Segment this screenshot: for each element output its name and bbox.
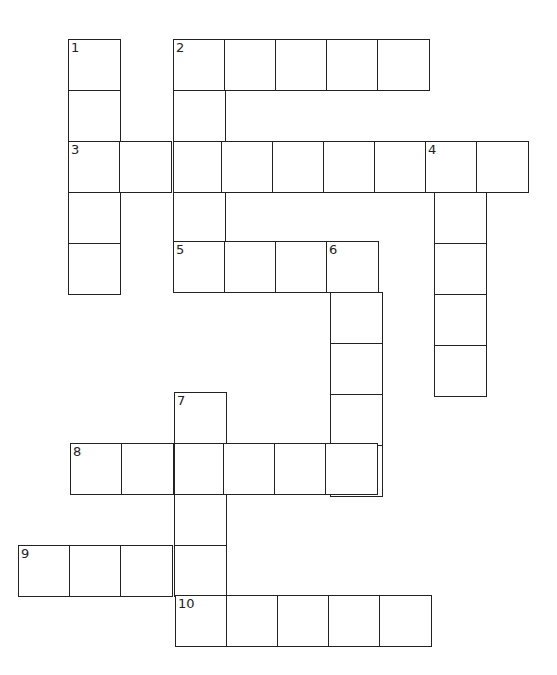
crossword-cell[interactable]	[476, 141, 529, 193]
crossword-cell[interactable]	[434, 192, 487, 244]
clue-number: 8	[73, 444, 81, 459]
crossword-cell[interactable]: 3	[68, 141, 121, 193]
clue-number: 2	[176, 40, 184, 55]
crossword-cell[interactable]	[173, 141, 226, 193]
crossword-cell[interactable]	[174, 443, 227, 495]
crossword-cell[interactable]	[224, 39, 277, 91]
crossword-cell[interactable]	[173, 90, 226, 142]
crossword-cell[interactable]	[374, 141, 427, 193]
crossword-cell[interactable]	[325, 443, 378, 495]
crossword-cell[interactable]: 1	[68, 39, 121, 91]
crossword-cell[interactable]	[328, 595, 381, 647]
crossword-cell[interactable]	[434, 243, 487, 295]
crossword-cell[interactable]	[330, 292, 383, 344]
crossword-cell[interactable]	[121, 443, 174, 495]
crossword-grid: 13245678910	[0, 0, 557, 675]
clue-number: 5	[176, 242, 184, 257]
crossword-cell[interactable]	[221, 141, 274, 193]
clue-number: 3	[71, 142, 79, 157]
clue-number: 1	[71, 40, 79, 55]
crossword-cell[interactable]: 8	[70, 443, 123, 495]
crossword-cell[interactable]	[68, 90, 121, 142]
crossword-cell[interactable]: 7	[174, 392, 227, 444]
clue-number: 6	[329, 242, 337, 257]
crossword-cell[interactable]	[275, 39, 328, 91]
crossword-cell[interactable]	[69, 545, 122, 597]
crossword-cell[interactable]: 5	[173, 241, 226, 293]
clue-number: 10	[178, 596, 195, 611]
crossword-cell[interactable]	[119, 141, 172, 193]
crossword-cell[interactable]	[224, 241, 277, 293]
crossword-cell[interactable]	[68, 243, 121, 295]
crossword-cell[interactable]	[434, 345, 487, 397]
crossword-cell[interactable]: 6	[326, 241, 379, 293]
crossword-cell[interactable]	[174, 494, 227, 546]
crossword-cell[interactable]: 4	[425, 141, 478, 193]
crossword-cell[interactable]	[68, 192, 121, 244]
crossword-cell[interactable]	[379, 595, 432, 647]
crossword-cell[interactable]	[272, 141, 325, 193]
clue-number: 4	[428, 142, 436, 157]
crossword-cell[interactable]	[174, 545, 227, 597]
crossword-cell[interactable]	[275, 241, 328, 293]
crossword-cell[interactable]	[274, 443, 327, 495]
crossword-cell[interactable]	[330, 394, 383, 446]
crossword-cell[interactable]: 10	[175, 595, 228, 647]
crossword-cell[interactable]	[226, 595, 279, 647]
crossword-cell[interactable]	[377, 39, 430, 91]
crossword-cell[interactable]	[326, 39, 379, 91]
clue-number: 7	[177, 393, 185, 408]
crossword-cell[interactable]	[330, 343, 383, 395]
crossword-cell[interactable]	[277, 595, 330, 647]
crossword-cell[interactable]	[120, 545, 173, 597]
crossword-cell[interactable]	[173, 192, 226, 244]
clue-number: 9	[21, 546, 29, 561]
crossword-cell[interactable]	[223, 443, 276, 495]
crossword-cell[interactable]	[434, 294, 487, 346]
crossword-cell[interactable]: 9	[18, 545, 71, 597]
crossword-cell[interactable]: 2	[173, 39, 226, 91]
crossword-cell[interactable]	[323, 141, 376, 193]
